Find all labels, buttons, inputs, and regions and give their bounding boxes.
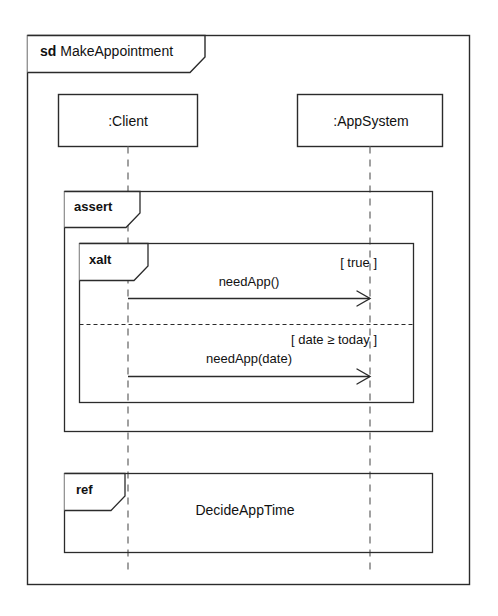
fragment-ref-body-label: DecideAppTime	[120, 503, 370, 517]
lifeline-label-appsystem: :AppSystem	[298, 114, 444, 128]
fragment-operator-xalt: xalt	[89, 253, 111, 266]
frame-title-label: MakeAppointment	[60, 43, 173, 59]
operand-guard-true: [ true ]	[230, 256, 377, 269]
fragment-ref-operator-tab	[65, 474, 126, 511]
lifeline-label-client: :Client	[58, 114, 198, 128]
frame-kind-label: sd	[40, 43, 56, 59]
operand-guard-date-today: [ date ≥ today ]	[210, 333, 377, 346]
fragment-operator-assert: assert	[74, 200, 112, 213]
message-needapp-arrow[interactable]	[128, 291, 370, 306]
frame-header: sd MakeAppointment	[40, 44, 173, 58]
message-label-needapp-date: needApp(date)	[128, 352, 370, 365]
message-needapp-date-arrow[interactable]	[128, 369, 370, 384]
message-label-needapp: needApp()	[128, 275, 370, 288]
sequence-diagram-canvas	[0, 0, 498, 616]
fragment-operator-ref: ref	[76, 483, 93, 496]
